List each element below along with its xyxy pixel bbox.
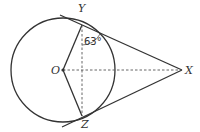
angle-label: 63° — [84, 36, 102, 47]
tangent-line-zx — [62, 70, 182, 127]
radius-oz — [63, 70, 82, 116]
radius-oy — [63, 25, 82, 70]
label-y: Y — [78, 2, 87, 15]
label-o: O — [51, 64, 60, 77]
centre-point-o — [61, 68, 64, 71]
tangent-line-yx — [60, 15, 182, 70]
geometry-diagram: Y Z O X 63° — [0, 0, 200, 132]
label-z: Z — [80, 118, 89, 131]
label-x: X — [184, 64, 194, 77]
